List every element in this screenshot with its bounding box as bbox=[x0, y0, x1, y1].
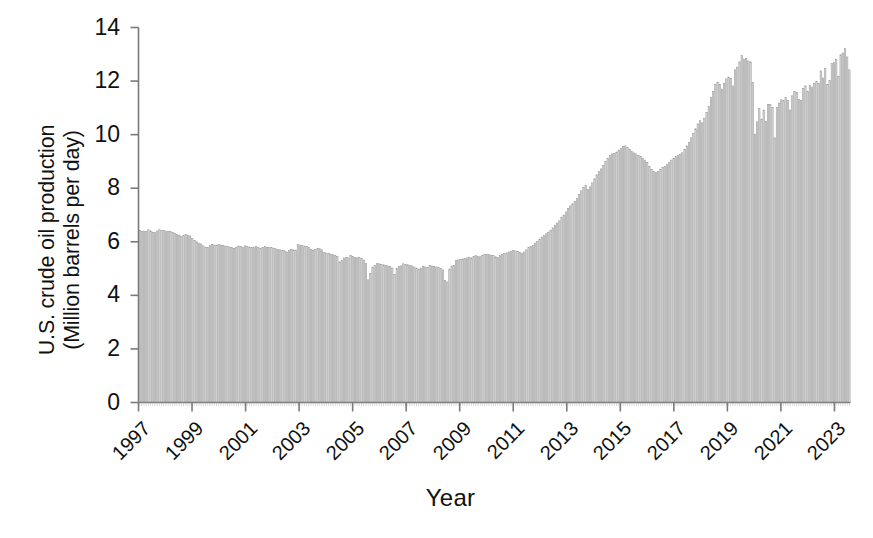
x-axis-title: Year bbox=[0, 484, 873, 512]
x-tick-label: 1999 bbox=[160, 417, 209, 466]
x-tick-label: 2005 bbox=[320, 417, 369, 466]
x-tick-label: 2015 bbox=[588, 417, 637, 466]
x-axis-title-text: Year bbox=[426, 484, 476, 512]
x-tick-label: 2007 bbox=[374, 417, 423, 466]
x-axis-tick-labels: 1997199920012003200520072009201120132015… bbox=[0, 0, 873, 538]
chart-figure: U.S. crude oil production (Million barre… bbox=[0, 0, 873, 538]
x-tick-label: 2003 bbox=[267, 417, 316, 466]
x-tick-label: 2009 bbox=[427, 417, 476, 466]
x-tick-label: 2001 bbox=[213, 417, 262, 466]
x-tick-label: 2011 bbox=[481, 417, 530, 466]
x-tick-label: 2019 bbox=[695, 417, 744, 466]
x-tick-label: 2013 bbox=[534, 417, 583, 466]
x-tick-label: 2023 bbox=[802, 417, 851, 466]
x-tick-label: 2017 bbox=[641, 417, 690, 466]
x-tick-label: 1997 bbox=[106, 417, 155, 466]
x-tick-label: 2021 bbox=[748, 417, 797, 466]
